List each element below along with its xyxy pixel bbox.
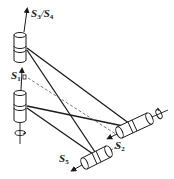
rotation-arrow-icon-right	[152, 108, 168, 120]
rotation-arrow-icon-left	[15, 123, 26, 144]
axis-arrow-s1	[21, 70, 22, 90]
label-s1-sub: 1	[17, 75, 21, 83]
axis-arrow-s34	[24, 10, 27, 32]
joint-top-cylinder	[14, 33, 26, 63]
mechanism-diagram	[0, 0, 174, 179]
joint-left-cylinder	[14, 91, 26, 123]
label-s4-sub: 4	[50, 13, 54, 21]
label-s2-sub: 2	[121, 145, 125, 153]
axis-arrow-s2	[109, 134, 117, 138]
label-s1: S1	[11, 70, 21, 83]
label-s3-s4: S3/S4	[31, 8, 53, 21]
link-top-to-bottom	[27, 50, 95, 152]
link-top-to-right	[27, 48, 130, 124]
link-left-to-bottom	[27, 108, 93, 154]
axis-marker-s1	[23, 75, 26, 79]
link-left-to-right	[27, 106, 128, 127]
label-s5-sub: 5	[65, 158, 69, 166]
label-s2: S2	[115, 140, 125, 153]
axis-arrow-s5	[73, 165, 82, 170]
label-s5: S5	[59, 153, 69, 166]
joint-right-cylinder	[114, 112, 155, 139]
